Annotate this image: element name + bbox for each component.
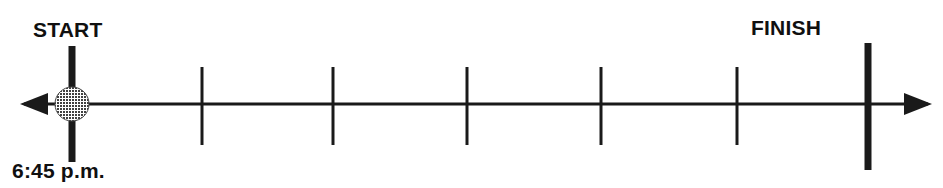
axis-left-arrowhead (20, 93, 48, 115)
axis-right-arrowhead (904, 93, 932, 115)
start-label: START (33, 19, 102, 40)
finish-label: FINISH (751, 17, 821, 38)
start-time-label: 6:45 p.m. (12, 160, 105, 181)
timeline-figure: START FINISH 6:45 p.m. (0, 0, 943, 188)
start-point-circle (55, 87, 89, 121)
